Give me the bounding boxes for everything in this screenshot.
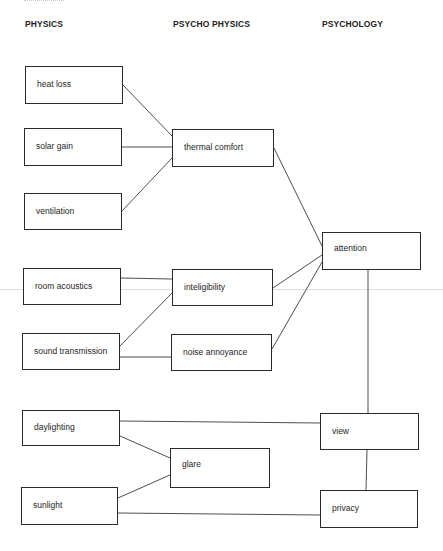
edge-daylighting-view [120,421,320,423]
node-noise-annoyance: noise annoyance [171,334,272,371]
node-inteligibility: inteligibility [172,269,273,306]
edge-inteligibility-attention [273,255,322,288]
edge-ventilation-thermal-comfort [122,158,172,211]
node-privacy: privacy [320,490,418,528]
edge-sunlight-glare [118,475,170,498]
node-sunlight: sunlight [21,487,118,525]
edge-sound-transmission-inteligibility [120,293,172,346]
node-thermal-comfort: thermal comfort [172,129,274,167]
node-glare: glare [170,448,270,488]
node-solar-gain: solar gain [24,128,122,166]
edge-heat-loss-thermal-comfort [123,85,172,136]
node-sound-transmission: sound transmission [22,333,120,370]
edge-view-privacy [366,450,367,490]
node-view: view [320,413,419,450]
node-daylighting: daylighting [22,410,120,446]
edge-daylighting-glare [120,436,170,458]
edge-sunlight-privacy [118,513,320,515]
edge-thermal-comfort-attention [274,148,322,246]
node-ventilation: ventilation [24,193,122,230]
node-attention: attention [322,232,421,270]
node-heat-loss: heat loss [25,66,123,104]
edge-room-acoustics-inteligibility [121,278,172,279]
node-room-acoustics: room acoustics [23,268,121,305]
edge-noise-annoyance-attention [272,262,322,349]
